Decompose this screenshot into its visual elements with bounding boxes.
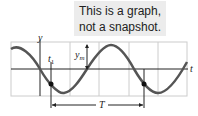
point-t1 [49, 82, 54, 87]
t1-label: t1 [48, 53, 55, 66]
point-t1-plus-T [142, 82, 147, 87]
amplitude-arrowhead-icon [85, 44, 89, 48]
period-arrowhead-icon [52, 103, 56, 107]
t-axis-label: t [190, 63, 193, 74]
wave-graph: y t t1 ym T [0, 0, 198, 116]
y-axis-label: y [37, 32, 43, 43]
period-arrowhead-icon [139, 103, 143, 107]
amplitude-label: ym [74, 49, 85, 62]
period-label: T [99, 99, 106, 110]
